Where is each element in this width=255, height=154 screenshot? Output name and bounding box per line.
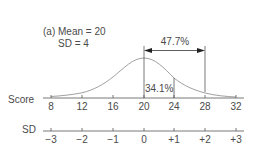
arrowhead-right-icon [197,48,205,53]
score-tick-label: 16 [107,101,119,112]
sd-tick-label: +2 [199,134,211,145]
sd-tick-label: +1 [168,134,180,145]
sd-tick-label: +3 [230,134,242,145]
pct-1sd-label: 34.1% [145,83,173,94]
sd-tick-label: −3 [45,134,57,145]
score-tick-label: 28 [199,101,211,112]
chart-title: (a) Mean = 20 [43,26,106,37]
sd-ticks [51,128,236,131]
score-ticks [51,95,236,98]
sd-axis-label: SD [22,124,36,135]
score-tick-label: 12 [76,101,88,112]
pct-2sd-label: 47.7% [161,36,189,47]
score-tick-label: 20 [138,101,150,112]
sd-tick-label: 0 [141,134,147,145]
chart-subtitle: SD = 4 [58,38,89,49]
score-tick-label: 24 [168,101,180,112]
sd-tick-label: −2 [76,134,88,145]
score-tick-label: 32 [230,101,242,112]
score-axis-label: Score [8,94,35,105]
normal-distribution-chart: (a) Mean = 20 SD = 4 47.7% 34.1% Score 8… [0,0,255,154]
sd-tick-label: −1 [107,134,119,145]
normal-curve [51,58,236,97]
arrowhead-left-icon [144,48,152,53]
score-tick-label: 8 [48,101,54,112]
